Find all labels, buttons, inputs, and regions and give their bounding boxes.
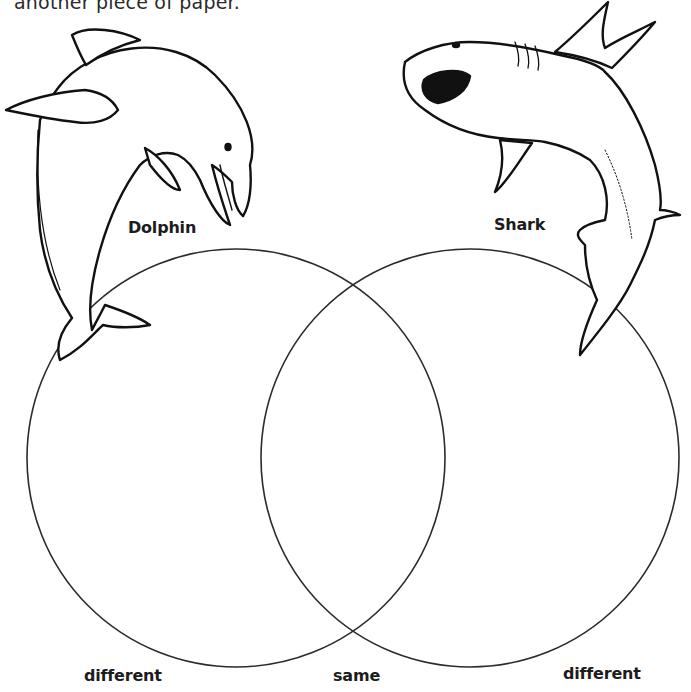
right-different-label: different [563,664,641,683]
dolphin-label: Dolphin [128,218,196,237]
venn-region-shark-only[interactable] [460,300,665,620]
venn-diagram-worksheet: another piece of paper. [0,0,691,692]
left-different-label: different [84,666,162,685]
middle-same-label: same [333,666,380,685]
venn-region-both[interactable] [270,300,435,620]
shark-label: Shark [494,215,545,234]
venn-region-dolphin-only[interactable] [40,300,240,620]
